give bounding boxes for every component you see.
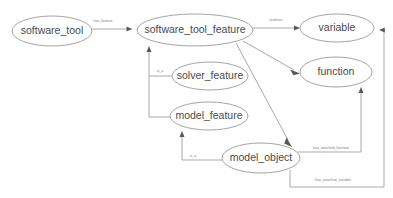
edge-solver-is-a-label: is_a [157,69,164,73]
node-software-tool-label: software_tool [21,24,83,36]
node-model-feature-label: model_feature [175,109,242,121]
edge-feature-to-function-line [243,41,294,70]
edge-solver-is-a[interactable]: is_a [147,46,173,76]
edge-feature-to-function-arrowhead [290,69,300,75]
edge-has-feature-arrowhead [127,27,133,32]
edge-feature-to-function[interactable] [243,41,300,75]
edge-has-feature-label: has_feature [94,19,113,23]
node-model-feature[interactable]: model_feature [170,102,248,130]
ontology-graph: has_feature involves is_ [0,0,393,198]
edge-involves-label: involves [270,18,283,22]
node-solver-feature[interactable]: solver_feature [172,62,248,90]
edge-feature-to-model-object-arrowhead [284,138,292,147]
node-model-object-label: model_object [230,151,293,163]
edge-feature-to-model-object-line [236,43,288,140]
edge-model-object-is-a-arrowhead [180,131,185,137]
diagram-canvas: has_feature involves is_ [0,0,393,198]
node-software-tool-feature-label: software_tool_feature [145,23,246,35]
edge-has-feature[interactable]: has_feature [92,19,132,31]
node-variable[interactable]: variable [300,14,374,42]
edge-model-object-is-a-line [182,137,222,160]
edge-model-object-is-a[interactable]: is_a [180,131,223,160]
node-software-tool[interactable]: software_tool [12,16,92,46]
node-model-object[interactable]: model_object [222,143,300,173]
node-variable-label: variable [319,21,356,33]
edge-solver-is-a-arrowhead [147,46,152,52]
edge-feature-to-model-object[interactable] [236,43,292,147]
edge-involves[interactable]: involves [253,18,300,31]
edge-has-attached-function[interactable]: has_attached_function [298,87,364,152]
node-function-label: function [318,65,355,77]
edge-has-attached-variable-line [290,30,384,187]
edge-has-attached-variable-label: has_attached_variable [315,178,351,182]
node-function[interactable]: function [300,57,372,87]
edge-has-attached-variable[interactable]: has_attached_variable [290,28,385,188]
node-software-tool-feature[interactable]: software_tool_feature [137,14,253,46]
edge-has-attached-function-arrowhead [359,87,364,93]
edge-model-feature-is-a-line [149,76,170,117]
edge-involves-arrowhead [294,25,300,30]
edge-model-feature-is-a[interactable] [149,76,170,117]
edge-has-attached-function-line [298,93,361,152]
edge-has-attached-function-label: has_attached_function [313,146,349,150]
edge-has-attached-variable-arrowhead [379,28,385,33]
node-solver-feature-label: solver_feature [177,69,244,81]
edge-model-object-is-a-label: is_a [190,154,197,158]
